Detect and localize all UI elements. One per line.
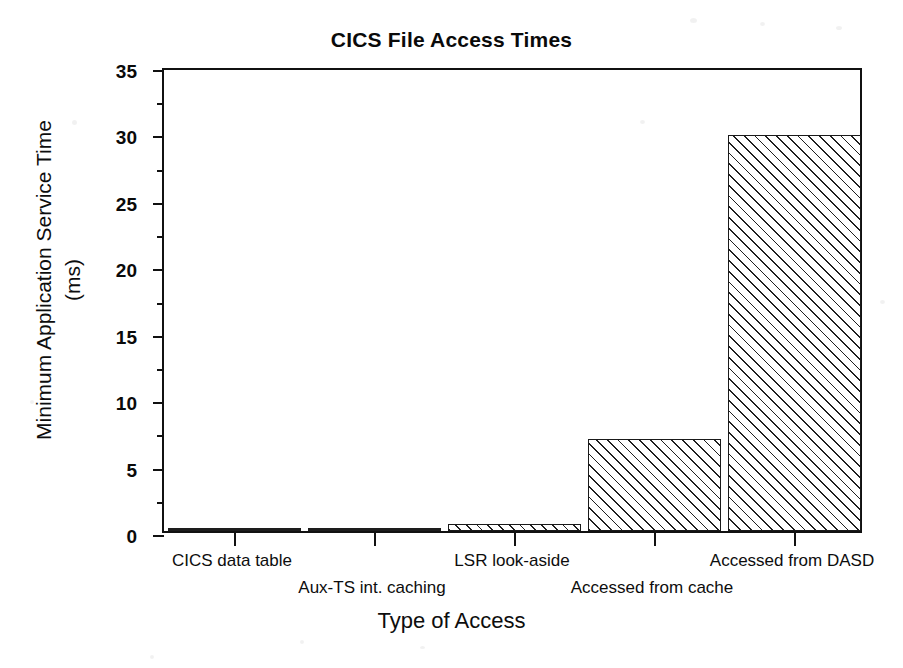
x-axis-tick (654, 531, 656, 546)
y-axis-title-line-1: Minimum Application Service Time (29, 120, 58, 440)
bar-series (164, 70, 860, 531)
y-axis-tick-label: 15 (116, 327, 137, 349)
y-axis-tick-label: 5 (126, 460, 137, 482)
x-axis-tick (234, 531, 236, 546)
y-axis-tick-label: 10 (116, 393, 137, 415)
y-axis-tick-major: 30 (153, 136, 164, 138)
plot-area: 05101520253035 (162, 68, 862, 533)
x-axis-category-label: LSR look-aside (454, 551, 569, 571)
scan-speckle (300, 640, 304, 644)
bar (308, 528, 441, 531)
scan-speckle (30, 400, 34, 404)
y-axis-title-line-2: (ms) (58, 259, 87, 301)
x-axis-category-label: Aux-TS int. caching (298, 578, 445, 598)
y-axis-tick-major: 10 (153, 402, 164, 404)
y-axis-tick-minor (157, 103, 164, 105)
y-axis-tick-minor (157, 435, 164, 437)
y-axis-tick-major: 5 (153, 469, 164, 471)
scan-speckle (690, 18, 697, 23)
scan-speckle (760, 22, 765, 26)
chart-title: CICS File Access Times (0, 28, 903, 52)
y-axis-tick-minor (157, 369, 164, 371)
y-axis-tick-major: 35 (153, 70, 164, 72)
y-axis-tick-minor (157, 303, 164, 305)
y-axis-tick-major: 15 (153, 336, 164, 338)
x-axis-title: Type of Access (0, 608, 903, 634)
y-axis-tick-major: 0 (153, 535, 164, 537)
y-axis-tick-label: 35 (116, 61, 137, 83)
y-axis-tick-label: 25 (116, 194, 137, 216)
bar (588, 439, 721, 531)
y-axis-tick-major: 20 (153, 269, 164, 271)
y-axis-tick-minor (157, 170, 164, 172)
bar (728, 135, 861, 531)
x-axis-tick (794, 531, 796, 546)
y-axis-tick-minor (157, 502, 164, 504)
scan-speckle (150, 655, 154, 659)
x-axis-category-label: Accessed from DASD (710, 551, 874, 571)
scan-speckle (880, 300, 885, 304)
y-axis-tick-label: 30 (116, 127, 137, 149)
bar (168, 528, 301, 531)
x-axis-category-label: Accessed from cache (571, 578, 734, 598)
x-axis-tick (514, 531, 516, 546)
x-axis-tick (374, 531, 376, 546)
y-axis-tick-label: 0 (126, 526, 137, 548)
scan-speckle (420, 646, 425, 649)
x-axis-category-label: CICS data table (172, 551, 292, 571)
bar (448, 524, 581, 531)
chart-figure: CICS File Access Times Minimum Applicati… (0, 0, 903, 668)
y-axis-tick-minor (157, 236, 164, 238)
scan-speckle (72, 120, 77, 125)
y-axis-tick-major: 25 (153, 203, 164, 205)
y-axis-tick-label: 20 (116, 260, 137, 282)
y-axis-title: Minimum Application Service Time (ms) (26, 30, 90, 530)
